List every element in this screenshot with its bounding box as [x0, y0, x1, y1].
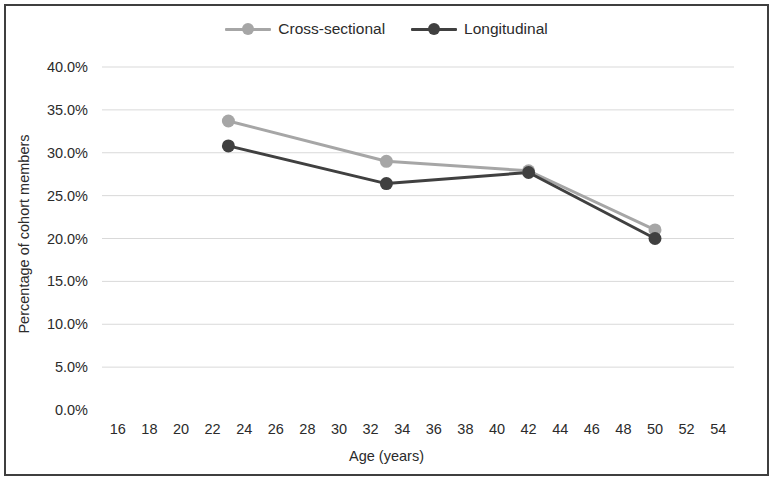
x-axis-tick-label: 26 — [268, 421, 284, 437]
y-axis-tick-label: 15.0% — [47, 273, 88, 289]
data-point — [222, 115, 235, 128]
x-axis-tick-label: 30 — [331, 421, 347, 437]
y-axis-tick-label: 40.0% — [47, 59, 88, 75]
x-axis-tick-label: 18 — [141, 421, 157, 437]
plot-svg: 0.0%5.0%10.0%15.0%20.0%25.0%30.0%35.0%40… — [6, 6, 767, 474]
chart-frame: Cross-sectional Longitudinal 0.0%5.0%10.… — [4, 4, 769, 476]
x-axis-tick-label: 24 — [236, 421, 252, 437]
x-axis-tick-label: 44 — [552, 421, 568, 437]
y-axis-title: Percentage of cohort members — [16, 114, 32, 354]
y-axis-tick-label: 10.0% — [47, 316, 88, 332]
x-axis-tick-label: 50 — [647, 421, 663, 437]
x-axis-tick-label: 48 — [615, 421, 631, 437]
x-axis-tick-label: 32 — [363, 421, 379, 437]
y-axis-tick-label: 5.0% — [55, 359, 88, 375]
x-axis-tick-label: 34 — [394, 421, 410, 437]
plot-area: 0.0%5.0%10.0%15.0%20.0%25.0%30.0%35.0%40… — [6, 6, 767, 474]
x-axis-tick-label: 20 — [173, 421, 189, 437]
y-axis-tick-label: 0.0% — [55, 402, 88, 418]
data-point — [222, 139, 235, 152]
x-axis-tick-label: 36 — [426, 421, 442, 437]
x-axis-tick-label: 22 — [205, 421, 221, 437]
series-line-1 — [228, 146, 655, 239]
x-axis-tick-label: 42 — [521, 421, 537, 437]
data-point — [380, 155, 393, 168]
data-point — [380, 177, 393, 190]
y-axis-tick-label: 30.0% — [47, 145, 88, 161]
x-axis-tick-label: 52 — [679, 421, 695, 437]
data-point — [522, 166, 535, 179]
x-axis-tick-label: 54 — [710, 421, 726, 437]
data-point — [649, 232, 662, 245]
x-axis-tick-label: 38 — [457, 421, 473, 437]
x-axis-tick-label: 46 — [584, 421, 600, 437]
x-axis-tick-label: 40 — [489, 421, 505, 437]
y-axis-tick-label: 35.0% — [47, 102, 88, 118]
x-axis-title: Age (years) — [6, 448, 767, 464]
y-axis-tick-label: 20.0% — [47, 231, 88, 247]
series-line-0 — [228, 121, 655, 230]
y-axis-tick-label: 25.0% — [47, 188, 88, 204]
x-axis-tick-label: 16 — [110, 421, 126, 437]
x-axis-tick-label: 28 — [299, 421, 315, 437]
